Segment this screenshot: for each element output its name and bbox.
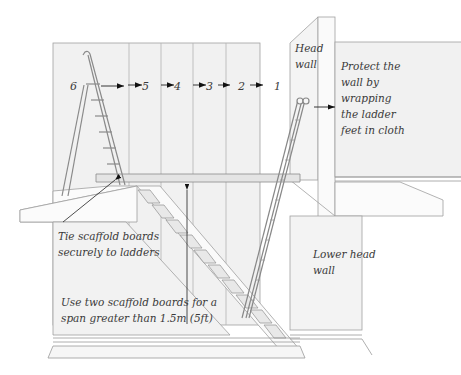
order-number-3: 3 bbox=[206, 80, 213, 93]
order-number-1: 1 bbox=[274, 80, 281, 93]
two-boards-label: Use two scaffold boards for a span great… bbox=[61, 294, 217, 326]
order-number-6: 6 bbox=[70, 80, 77, 93]
order-number-4: 4 bbox=[174, 80, 181, 93]
scaffold-board bbox=[96, 174, 300, 182]
tie-boards-label: Tie scaffold boards securely to ladders bbox=[58, 228, 160, 260]
diagram: 6 5 4 3 2 1 Head wall Protect the wall b… bbox=[0, 0, 461, 375]
protect-wall-label: Protect the wall by wrapping the ladder … bbox=[341, 58, 405, 138]
head-wall-label: Head wall bbox=[295, 40, 323, 72]
order-number-2: 2 bbox=[238, 80, 245, 93]
lower-head-wall-label: Lower head wall bbox=[313, 246, 376, 278]
order-number-5: 5 bbox=[142, 80, 149, 93]
skirting bbox=[48, 335, 372, 358]
right-landing bbox=[335, 182, 443, 216]
